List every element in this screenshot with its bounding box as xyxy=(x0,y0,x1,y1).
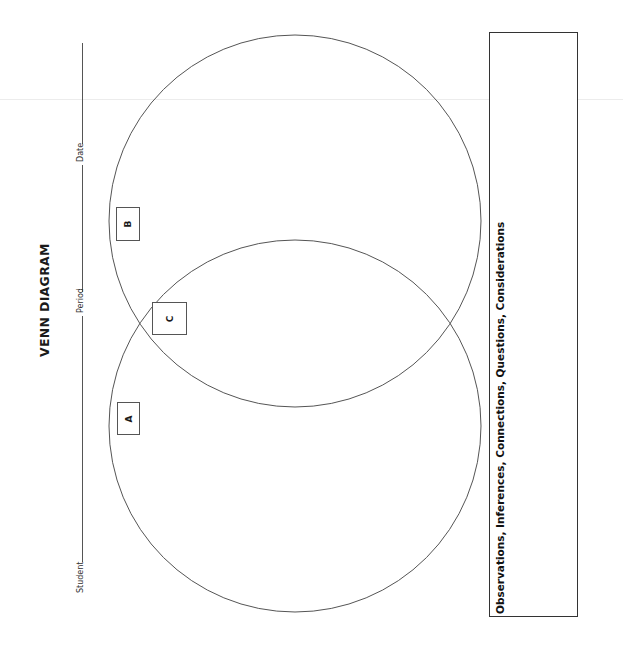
region-c-box[interactable]: C xyxy=(152,302,187,335)
region-a-box[interactable]: A xyxy=(117,402,140,435)
region-c-label: C xyxy=(165,315,175,322)
date-label: Date xyxy=(76,143,85,162)
region-b-box[interactable]: B xyxy=(116,207,140,241)
period-label: Period xyxy=(76,288,85,313)
period-field-line[interactable] xyxy=(82,165,83,292)
observations-notes-label: Observations, Inferences, Connections, Q… xyxy=(494,222,506,614)
circle-a[interactable] xyxy=(109,240,481,612)
date-field-line[interactable] xyxy=(82,43,83,144)
region-b-label: B xyxy=(123,221,133,228)
venn-worksheet-page: VENN DIAGRAM Date Period Student B C A O… xyxy=(0,0,623,658)
student-label: Student xyxy=(76,562,85,594)
region-a-label: A xyxy=(124,415,134,422)
page-title: VENN DIAGRAM xyxy=(37,243,52,357)
circle-b[interactable] xyxy=(109,35,481,407)
student-field-line[interactable] xyxy=(82,316,83,562)
